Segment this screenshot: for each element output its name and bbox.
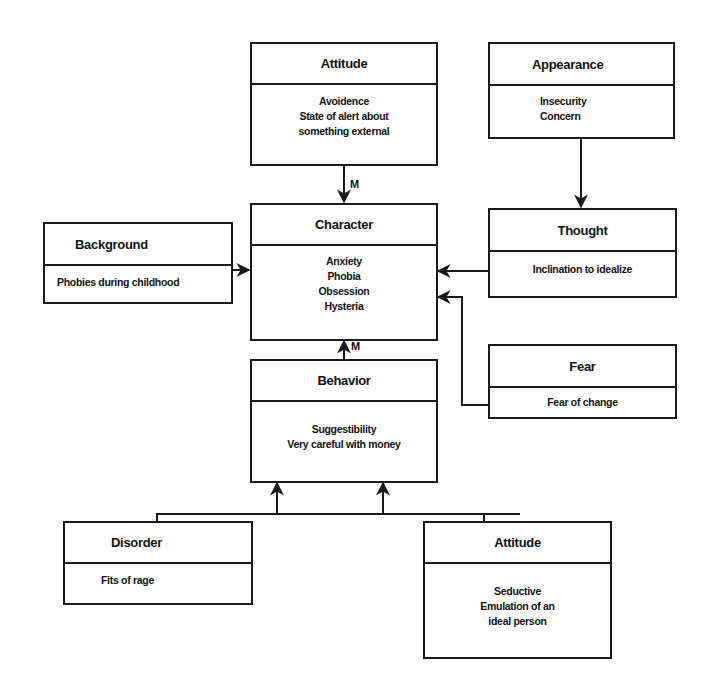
node-title: Thought [490, 210, 675, 252]
node-body: Suggestibility Very careful with money [252, 402, 436, 452]
edge-fear-to-character [438, 297, 488, 405]
node-body: Fear of change [490, 388, 675, 410]
node-attitude-top[interactable]: Attitude Avoidence State of alert about … [250, 42, 438, 166]
node-character[interactable]: Character Anxiety Phobia Obsession Hyste… [250, 203, 438, 341]
edge-disorder-bus [157, 514, 484, 521]
node-body: Insecurity Concern [490, 86, 673, 124]
node-behavior[interactable]: Behavior Suggestibility Very careful wit… [250, 359, 438, 483]
node-line: Emulation of an [425, 599, 610, 614]
node-line: Fits of rage [101, 573, 251, 588]
node-title: Character [252, 205, 436, 246]
node-title: Disorder [65, 523, 251, 564]
node-line: Hysteria [252, 299, 436, 314]
node-title: Background [45, 224, 231, 266]
node-line: Insecurity [540, 94, 673, 109]
node-title: Attitude [252, 44, 436, 85]
node-body: Fits of rage [65, 564, 251, 588]
node-line: Avoidence [252, 94, 436, 109]
node-title: Appearance [490, 44, 673, 86]
node-fear[interactable]: Fear Fear of change [488, 344, 677, 419]
node-line: Concern [540, 109, 673, 124]
node-title: Fear [490, 346, 675, 388]
node-attitude-bottom[interactable]: Attitude Seductive Emulation of an ideal… [423, 521, 612, 659]
node-title: Behavior [252, 361, 436, 402]
node-line: ideal person [425, 614, 610, 629]
node-line: State of alert about [252, 109, 436, 124]
node-line: Fear of change [490, 395, 675, 410]
node-line: Obsession [252, 284, 436, 299]
node-line: Phobia [252, 269, 436, 284]
node-line: Very careful with money [252, 437, 436, 452]
node-line: something external [252, 124, 436, 139]
node-line: Suggestibility [252, 422, 436, 437]
edge-label-m-top: M [350, 178, 359, 190]
edge-label-m-bottom: M [351, 340, 360, 352]
node-body: Anxiety Phobia Obsession Hysteria [252, 246, 436, 314]
node-appearance[interactable]: Appearance Insecurity Concern [488, 42, 675, 139]
node-thought[interactable]: Thought Inclination to idealize [488, 208, 677, 298]
node-body: Avoidence State of alert about something… [252, 85, 436, 139]
node-line: Seductive [425, 584, 610, 599]
node-disorder[interactable]: Disorder Fits of rage [63, 521, 253, 605]
node-body: Inclination to idealize [490, 252, 675, 277]
node-body: Seductive Emulation of an ideal person [425, 564, 610, 629]
node-background[interactable]: Background Phobies during childhood [43, 222, 233, 304]
node-line: Inclination to idealize [490, 262, 675, 277]
node-line: Anxiety [252, 254, 436, 269]
node-line: Phobies during childhood [57, 275, 231, 290]
node-title: Attitude [425, 523, 610, 564]
node-body: Phobies during childhood [45, 266, 231, 290]
